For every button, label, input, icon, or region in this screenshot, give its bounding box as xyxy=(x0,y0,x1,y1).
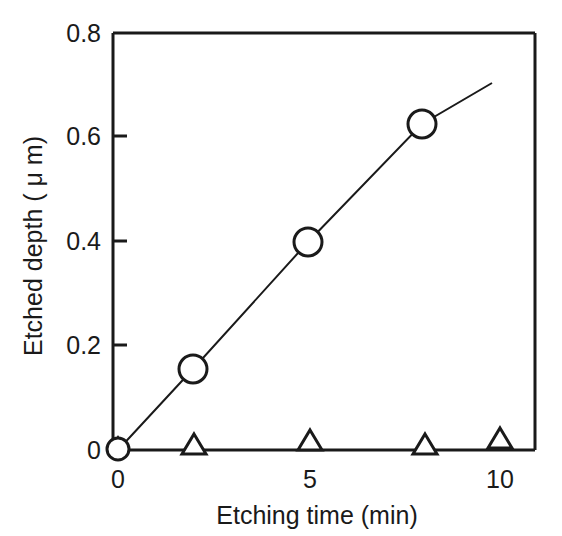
x-tick-label-0: 0 xyxy=(111,465,125,493)
y-tick-label-0-6: 0.6 xyxy=(66,122,101,150)
etched-depth-line xyxy=(118,83,492,450)
x-tick-labels: 0 5 10 xyxy=(111,465,514,493)
series-etched-sample xyxy=(107,83,492,460)
triangle-marker xyxy=(413,434,437,454)
triangle-marker xyxy=(182,434,206,454)
chart-canvas: 0.8 0.6 0.4 0.2 0 0 5 10 xyxy=(0,0,562,536)
figure-container: 0.8 0.6 0.4 0.2 0 0 5 10 xyxy=(0,0,562,536)
y-tick-label-0: 0 xyxy=(87,436,101,464)
y-axis-title: Etched depth ( μ m) xyxy=(19,136,47,356)
circle-marker xyxy=(294,228,322,256)
circle-marker xyxy=(408,110,436,138)
triangle-marker xyxy=(488,428,512,448)
y-tick-label-0-8: 0.8 xyxy=(66,19,101,47)
y-tick-label-0-2: 0.2 xyxy=(66,331,101,359)
y-tick-label-0-4: 0.4 xyxy=(66,227,101,255)
x-tick-label-5: 5 xyxy=(303,465,317,493)
x-axis-title: Etching time (min) xyxy=(216,501,417,529)
series-reference-sample xyxy=(110,428,512,454)
y-axis-ticks xyxy=(113,136,127,345)
x-tick-label-10: 10 xyxy=(486,465,514,493)
triangle-marker xyxy=(298,430,322,450)
y-tick-labels: 0.8 0.6 0.4 0.2 0 xyxy=(66,19,101,464)
circle-marker xyxy=(107,438,129,460)
circle-marker xyxy=(179,355,207,383)
